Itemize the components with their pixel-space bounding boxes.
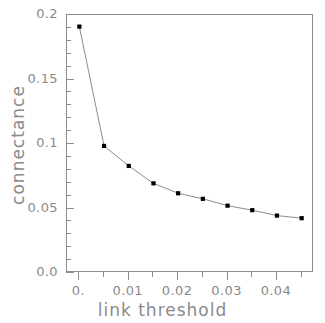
y-axis-tick-minor [66,156,71,157]
x-axis-tick-label: 0.04 [261,283,292,298]
data-point-marker [151,181,155,185]
x-axis-tick-minor [103,272,104,277]
x-axis-tick-minor [152,272,153,277]
data-point-marker [127,164,131,168]
y-axis-tick-minor [66,246,71,247]
series-line [79,27,301,219]
y-axis-tick-minor [66,117,71,118]
data-series-line [67,15,314,273]
y-axis-tick-label: 0.2 [0,6,58,21]
y-axis-tick-major [66,272,74,273]
x-axis-tick-label: 0.01 [112,283,143,298]
y-axis-tick-minor [66,195,71,196]
y-axis-tick-minor [66,233,71,234]
data-point-marker [176,191,180,195]
data-point-marker [300,216,304,220]
y-axis-tick-minor [66,104,71,105]
x-axis-tick-minor [251,272,252,277]
data-point-marker [225,204,229,208]
x-axis-tick-minor [202,272,203,277]
y-axis-tick-minor [66,27,71,28]
y-axis-tick-major [66,14,74,15]
x-axis-title: link threshold [0,300,325,320]
y-axis-title: connectance [8,80,28,210]
y-axis-tick-minor [66,182,71,183]
plot-area [66,14,313,272]
x-axis-tick-label: 0.03 [211,283,242,298]
data-point-marker [77,25,81,29]
y-axis-tick-minor [66,130,71,131]
x-axis-tick-major [276,272,277,280]
y-axis-tick-major [66,143,74,144]
y-axis-tick-minor [66,259,71,260]
y-axis-tick-major [66,208,74,209]
y-axis-tick-minor [66,66,71,67]
data-point-marker [250,208,254,212]
x-axis-tick-major [227,272,228,280]
y-axis-tick-minor [66,169,71,170]
data-point-marker [275,214,279,218]
y-axis-tick-minor [66,220,71,221]
y-axis-tick-minor [66,53,71,54]
y-axis-tick-minor [66,91,71,92]
y-axis-tick-minor [66,40,71,41]
x-axis-tick-minor [301,272,302,277]
x-axis-tick-major [78,272,79,280]
chart-figure: 0.00.050.10.150.2 0.0.010.020.030.04 lin… [0,0,325,323]
data-point-marker [102,144,106,148]
x-axis-tick-label: 0. [72,283,85,298]
y-axis-tick-major [66,79,74,80]
x-axis-tick-major [177,272,178,280]
x-axis-tick-label: 0.02 [162,283,193,298]
data-point-marker [201,197,205,201]
y-axis-tick-label: 0.0 [0,264,58,279]
x-axis-tick-major [128,272,129,280]
